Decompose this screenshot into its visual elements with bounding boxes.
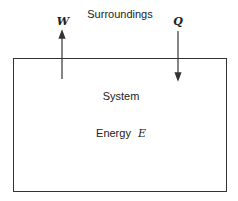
energy-prefix: Energy	[96, 127, 131, 139]
work-label: W	[57, 15, 71, 28]
energy-symbol: E	[137, 127, 146, 140]
system-label: System	[103, 90, 140, 102]
system-boundary	[14, 59, 227, 192]
heat-label: Q	[173, 15, 183, 28]
surroundings-label: Surroundings	[87, 8, 153, 20]
system-surroundings-diagram: Surroundings W Q System Energy E	[0, 0, 238, 201]
energy-label: Energy E	[96, 123, 146, 140]
